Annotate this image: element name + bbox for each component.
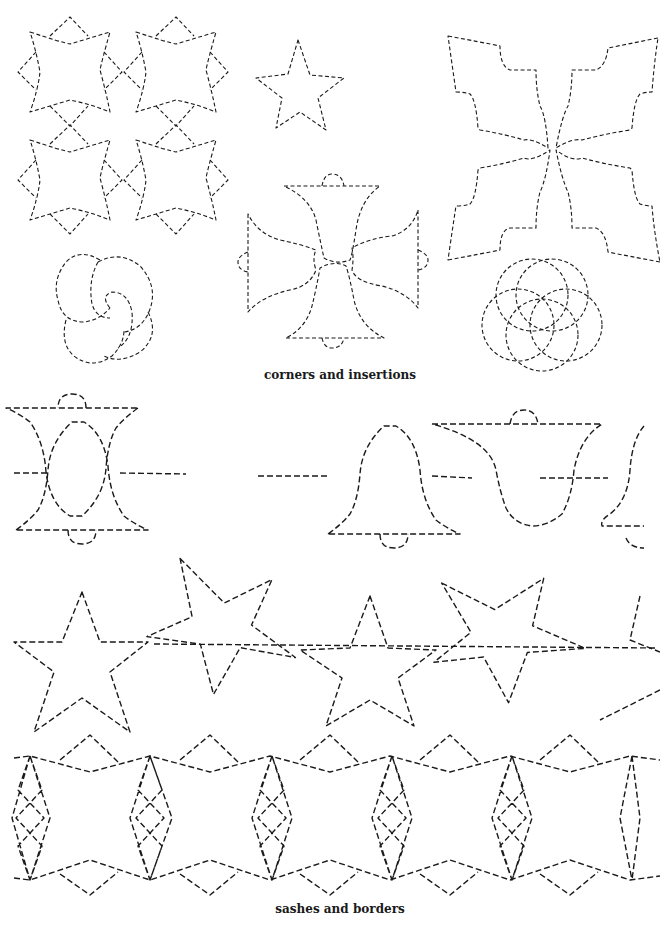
maltese-bell-cross (238, 174, 428, 348)
holly-leaf-cross (448, 36, 660, 262)
section-caption-corners: corners and insertions (10, 368, 660, 382)
diamond-lattice-border (12, 735, 660, 895)
pattern-sheet (0, 0, 660, 926)
small-five-point-star (256, 40, 344, 130)
interlocking-rings-swirl (56, 254, 152, 363)
overlapping-circles (482, 259, 602, 371)
section-caption-sashes: sashes and borders (10, 902, 660, 916)
bell-border (6, 394, 644, 548)
four-star-block (18, 17, 228, 234)
star-border (14, 555, 660, 732)
